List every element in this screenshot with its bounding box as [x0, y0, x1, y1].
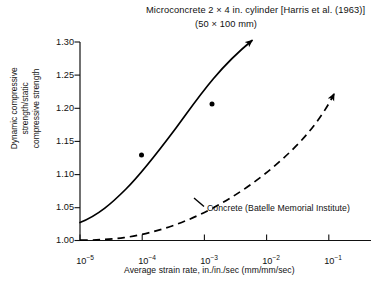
data-point-2: [210, 102, 215, 107]
series-line-concrete-batelle: [80, 94, 334, 240]
data-point-1: [139, 153, 144, 158]
series-line-microconcrete: [80, 41, 252, 223]
annotation-leader-line: [194, 198, 204, 207]
chart-figure: Microconcrete 2 × 4 in. cylinder [Harris…: [0, 0, 373, 287]
x-tick-marks: [80, 235, 329, 241]
plot-area: [0, 0, 373, 287]
y-tick-marks: [75, 42, 81, 241]
